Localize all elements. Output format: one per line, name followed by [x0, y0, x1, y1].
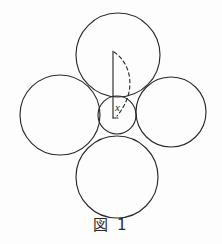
- figure-page: x 図 1: [0, 0, 222, 244]
- geometry-diagram: [0, 0, 222, 244]
- radius-variable-label: x: [115, 101, 120, 113]
- right-circle: [136, 77, 206, 147]
- figure-caption: 図 1: [0, 213, 222, 234]
- bottom-circle: [76, 136, 158, 218]
- top-circle: [76, 13, 160, 97]
- left-circle: [20, 75, 100, 155]
